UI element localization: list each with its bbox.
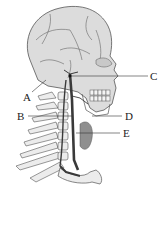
thyroid (80, 122, 92, 149)
label-e: E (123, 128, 130, 139)
leader-a (32, 80, 46, 92)
label-b: B (17, 111, 24, 122)
label-d: D (125, 111, 133, 122)
label-c: C (150, 71, 157, 82)
marker-c (69, 75, 72, 78)
label-a: A (23, 92, 31, 103)
